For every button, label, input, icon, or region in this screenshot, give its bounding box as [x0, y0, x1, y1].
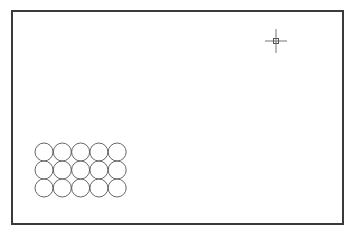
circle-entity[interactable]	[53, 161, 71, 179]
circle-array[interactable]	[35, 143, 126, 197]
circle-entity[interactable]	[35, 161, 53, 179]
drawing-layer	[0, 0, 348, 230]
circle-entity[interactable]	[90, 161, 108, 179]
circle-entity[interactable]	[90, 143, 108, 161]
circle-entity[interactable]	[108, 161, 126, 179]
circle-entity[interactable]	[72, 161, 90, 179]
circle-entity[interactable]	[108, 143, 126, 161]
circle-entity[interactable]	[90, 179, 108, 197]
circle-entity[interactable]	[108, 179, 126, 197]
circle-entity[interactable]	[72, 179, 90, 197]
circle-entity[interactable]	[53, 143, 71, 161]
circle-entity[interactable]	[53, 179, 71, 197]
circle-entity[interactable]	[72, 143, 90, 161]
crosshair-cursor-icon	[265, 29, 287, 53]
circle-entity[interactable]	[35, 179, 53, 197]
circle-entity[interactable]	[35, 143, 53, 161]
